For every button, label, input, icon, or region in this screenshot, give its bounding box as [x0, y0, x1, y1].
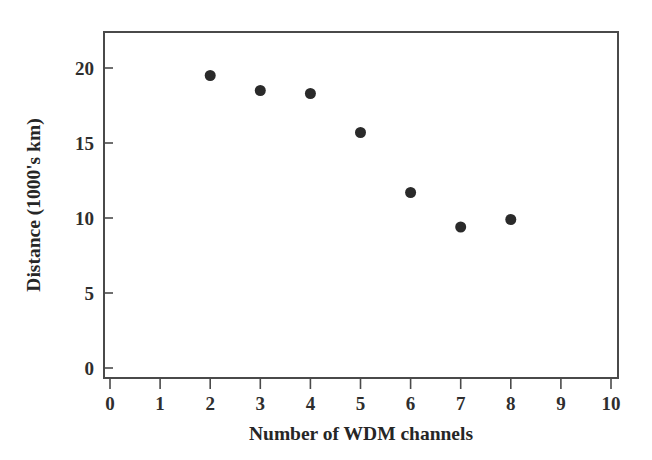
y-axis-ticks [104, 68, 113, 368]
x-tick-label: 4 [306, 393, 316, 414]
y-tick-label: 20 [75, 58, 94, 79]
y-tick-label: 5 [85, 283, 95, 304]
x-tick-label: 10 [602, 393, 621, 414]
x-tick-label: 8 [506, 393, 516, 414]
x-tick-label: 7 [456, 393, 466, 414]
x-axis-ticks [110, 378, 611, 389]
data-point [455, 222, 466, 233]
y-tick-label: 0 [85, 358, 95, 379]
scatter-plot: 05101520 012345678910 Number of WDM chan… [0, 0, 652, 460]
y-axis-tick-labels: 05101520 [75, 58, 94, 379]
data-point [255, 85, 266, 96]
data-point [505, 214, 516, 225]
x-tick-label: 1 [155, 393, 165, 414]
data-point-group [205, 70, 517, 233]
y-tick-label: 15 [75, 133, 94, 154]
x-tick-label: 0 [105, 393, 115, 414]
x-tick-label: 9 [556, 393, 566, 414]
x-axis-tick-labels: 012345678910 [105, 393, 620, 414]
data-point [305, 88, 316, 99]
y-axis-title: Distance (1000's km) [23, 118, 45, 291]
x-axis-title: Number of WDM channels [249, 423, 473, 444]
data-point [355, 127, 366, 138]
plot-frame [104, 32, 618, 378]
x-tick-label: 3 [256, 393, 266, 414]
data-point [205, 70, 216, 81]
data-point [405, 187, 416, 198]
y-tick-label: 10 [75, 208, 94, 229]
x-tick-label: 6 [406, 393, 416, 414]
x-tick-label: 2 [205, 393, 215, 414]
x-tick-label: 5 [356, 393, 366, 414]
chart-figure: 05101520 012345678910 Number of WDM chan… [0, 0, 652, 460]
